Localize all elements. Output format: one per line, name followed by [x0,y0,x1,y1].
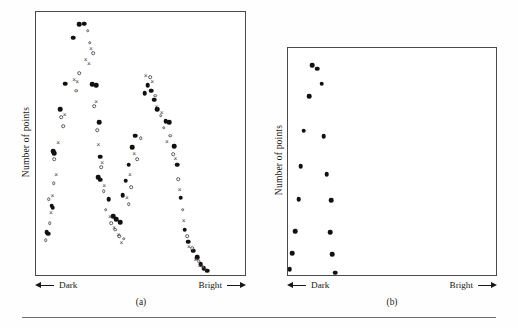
data-point-cross [159,109,164,114]
data-point-filled-circle [310,63,315,68]
data-point-filled-circle [58,107,63,112]
data-point-cross [94,99,99,104]
data-point-cross [173,156,178,161]
data-point-open-circle [181,208,185,212]
figure-container: Number of points Dark Bright (a) Number … [0,0,518,327]
data-point-cross [164,138,169,143]
data-point-filled-circle [107,197,112,202]
data-point-open-circle [48,221,52,225]
data-point-filled-circle [123,178,128,183]
data-point-open-circle [168,134,172,138]
data-point-filled-circle [287,267,292,272]
data-point-cross [132,150,137,155]
panel-b-bright-end: Bright [450,280,497,290]
panel-b-bright-label: Bright [450,280,473,290]
panel-b-x-axis: Dark Bright [287,280,497,292]
data-point-open-circle [104,208,108,212]
data-point-open-circle [153,94,157,98]
data-point-filled-circle [118,220,123,225]
data-point-filled-circle [52,151,57,156]
data-point-cross [181,218,186,223]
data-point-open-circle [92,105,96,109]
data-point-filled-circle [178,196,183,201]
data-point-filled-circle [133,133,138,138]
data-point-open-circle [78,71,82,75]
data-point-cross [143,72,148,77]
data-point-cross [119,239,124,244]
data-point-filled-circle [142,91,147,96]
data-point-cross [202,267,207,272]
data-point-cross [54,171,59,176]
data-point-cross [193,256,198,261]
data-point-filled-circle [97,120,102,125]
panel-a-bright-end: Bright [199,280,246,290]
panel-a-plot-area [35,11,246,276]
data-point-filled-circle [319,81,324,86]
panel-a-dark-end: Dark [35,280,77,290]
data-point-filled-circle [325,172,330,177]
panel-b-caption: (b) [387,297,398,307]
data-point-cross [86,60,91,65]
data-point-cross [116,231,121,236]
data-point-cross [124,194,129,199]
data-point-filled-circle [63,82,68,87]
data-point-cross [96,141,101,146]
data-point-open-circle [177,177,181,181]
data-point-filled-circle [307,94,312,99]
data-point-open-circle [52,158,56,162]
data-point-filled-circle [290,251,295,256]
data-point-open-circle [62,124,66,128]
arrow-left-icon [35,282,56,289]
panel-a-bright-label: Bright [199,280,222,290]
data-point-open-circle [129,185,133,189]
data-point-cross [100,160,105,165]
data-point-cross [50,193,55,198]
data-point-filled-circle [302,128,307,133]
data-point-cross [88,46,93,51]
data-point-filled-circle [175,162,180,167]
panel-a-dark-label: Dark [59,280,77,290]
data-point-open-circle [102,189,106,193]
data-point-open-circle [100,166,104,170]
data-point-open-circle [185,234,189,238]
data-point-open-circle [95,128,99,132]
data-point-cross [56,140,61,145]
data-point-cross [177,186,182,191]
data-point-filled-circle [172,144,177,149]
data-point-filled-circle [71,35,76,40]
data-point-open-circle [74,89,78,93]
data-point-filled-circle [298,164,303,169]
data-point-cross [75,79,80,84]
data-point-filled-circle [293,229,298,234]
panel-b-plot-area [287,47,497,276]
data-point-open-circle [86,29,90,33]
data-point-filled-circle [315,66,320,71]
data-point-cross [112,224,117,229]
data-point-filled-circle [330,252,335,257]
data-point-open-circle [127,203,131,207]
data-point-filled-circle [333,270,338,275]
panel-b-dark-label: Dark [311,280,329,290]
data-point-cross [48,210,53,215]
panel-b-dark-end: Dark [287,280,329,290]
data-point-cross [150,79,155,84]
data-point-filled-circle [77,22,82,27]
data-point-open-circle [139,136,143,140]
panel-a-x-axis: Dark Bright [35,280,246,292]
data-point-filled-circle [149,88,154,93]
data-point-filled-circle [127,162,132,167]
panel-a-y-axis-label: Number of points [21,87,31,197]
data-point-filled-circle [82,21,87,26]
data-point-filled-circle [296,197,301,202]
data-point-cross [62,112,67,117]
data-point-cross [102,182,107,187]
panel-b-y-axis-label: Number of points [274,105,284,215]
data-point-open-circle [44,238,48,242]
data-point-cross [187,243,192,248]
data-point-open-circle [91,52,95,56]
panel-a [35,11,246,276]
data-point-filled-circle [183,227,188,232]
panel-b [287,47,497,276]
data-point-filled-circle [167,120,172,125]
data-point-filled-circle [321,134,326,139]
